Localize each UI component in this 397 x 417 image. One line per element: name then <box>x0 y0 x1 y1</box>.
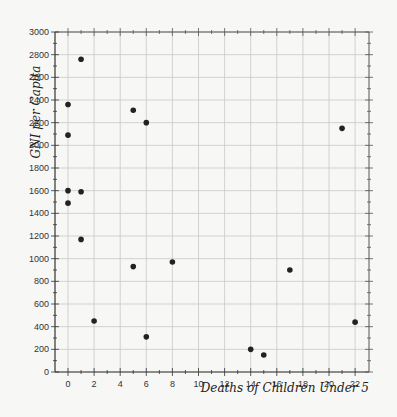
y-tick-label: 1600 <box>29 186 49 196</box>
data-point <box>144 120 150 126</box>
y-tick-label: 1800 <box>29 163 49 173</box>
tick-labels: 0200400600800100012001400160018002000220… <box>29 27 360 389</box>
data-point <box>248 347 254 353</box>
x-tick-label: 2 <box>92 379 97 389</box>
x-tick-label: 8 <box>170 379 175 389</box>
x-tick-label: 6 <box>144 379 149 389</box>
y-axis-title: GNI per Capita <box>29 66 43 159</box>
x-tick-label: 0 <box>65 379 70 389</box>
data-point <box>91 318 97 324</box>
y-tick-label: 800 <box>34 276 49 286</box>
data-point <box>65 200 71 206</box>
x-axis-title: Deaths of Children Under 5 <box>200 381 369 395</box>
data-point <box>78 237 84 243</box>
y-tick-label: 1400 <box>29 208 49 218</box>
scatter-chart: 0200400600800100012001400160018002000220… <box>0 0 397 417</box>
tick-marks <box>51 28 373 376</box>
grid-lines <box>55 32 369 372</box>
data-point <box>78 189 84 195</box>
data-points <box>65 56 358 357</box>
y-tick-label: 200 <box>34 344 49 354</box>
x-tick-label: 4 <box>118 379 123 389</box>
y-tick-label: 1200 <box>29 231 49 241</box>
y-tick-label: 2800 <box>29 50 49 60</box>
data-point <box>352 319 358 325</box>
data-point <box>287 267 293 273</box>
y-tick-label: 600 <box>34 299 49 309</box>
data-point <box>144 334 150 340</box>
data-point <box>339 126 345 132</box>
axes <box>55 32 369 372</box>
data-point <box>65 102 71 108</box>
y-tick-label: 1000 <box>29 254 49 264</box>
data-point <box>261 352 267 358</box>
data-point <box>78 56 84 62</box>
data-point <box>130 107 136 113</box>
y-tick-label: 400 <box>34 322 49 332</box>
data-point <box>65 188 71 194</box>
data-point <box>170 259 176 265</box>
y-tick-label: 3000 <box>29 27 49 37</box>
data-point <box>65 132 71 138</box>
data-point <box>130 264 136 270</box>
y-tick-label: 0 <box>44 367 49 377</box>
